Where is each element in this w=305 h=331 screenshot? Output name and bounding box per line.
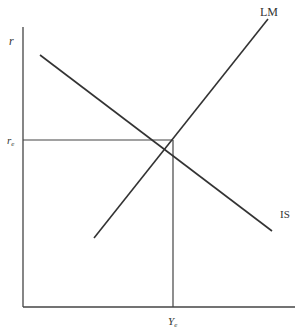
is-curve — [40, 55, 272, 231]
re-label: re — [7, 134, 14, 148]
lm-curve — [94, 19, 268, 238]
ye-label: Ye — [168, 315, 177, 329]
is-lm-diagram: r re Ye LM IS — [0, 0, 305, 331]
y-axis-label: r — [9, 34, 14, 48]
lm-label: LM — [260, 5, 278, 19]
is-label: IS — [280, 208, 290, 220]
